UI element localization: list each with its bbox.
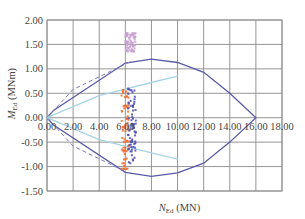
scatter-point [135,132,137,134]
scatter-point [134,47,136,49]
x-tick-label: 12.00 [192,121,216,132]
scatter-point [134,142,136,144]
x-tick-label: 4.00 [90,121,108,132]
scatter-point [123,138,125,140]
mn-interaction-chart: 2.001.501.000.500.00-0.50-1.00-1.500.002… [0,0,305,219]
plot-area [47,20,282,191]
scatter-point [122,92,124,94]
scatter-point [130,100,132,102]
scatter-point [126,140,128,142]
scatter-point [134,96,136,98]
scatter-point [131,49,133,51]
scatter-point [130,150,132,152]
scatter-point [125,34,127,36]
scatter-point [124,165,126,167]
scatter-point [133,90,135,92]
y-tick-label: 0.50 [25,88,43,99]
scatter-point [128,103,130,105]
scatter-point [131,116,133,118]
scatter-point [128,161,130,163]
scatter-point [130,146,132,148]
scatter-point [127,115,129,117]
scatter-point [127,93,129,95]
scatter-point [122,90,124,92]
scatter-point [132,158,134,160]
scatter-point [135,123,137,125]
scatter-point [134,32,136,34]
y-tick-label: 1.50 [25,39,43,50]
scatter-point [121,162,123,164]
scatter-point [124,147,126,149]
x-tick-label: 18.00 [270,121,294,132]
x-tick-label: 8.00 [142,121,160,132]
scatter-point [129,89,131,91]
y-tick-label: -1.00 [21,161,43,172]
chart-root: 2.001.501.000.500.00-0.50-1.00-1.500.002… [0,0,305,219]
scatter-point [128,148,130,150]
scatter-point [125,105,127,107]
scatter-point [127,51,129,53]
scatter-point [134,98,136,100]
scatter-point [123,141,125,143]
scatter-point [128,117,130,119]
x-tick-label: 10.00 [166,121,190,132]
y-axis-label: MEd (MNm) [6,67,19,120]
scatter-point [132,41,134,43]
scatter-point [134,38,136,40]
x-tick-label: 14.00 [218,121,242,132]
y-tick-label: -0.50 [21,137,43,148]
scatter-point [121,149,123,151]
scatter-point [134,150,136,152]
scatter-point [121,137,123,139]
scatter-point [123,146,125,148]
scatter-point [124,42,126,44]
x-tick-label: 0.00 [38,121,56,132]
scatter-point [134,134,136,136]
scatter-point [121,95,123,97]
scatter-point [134,157,136,159]
scatter-point [129,41,131,43]
scatter-point [126,44,128,46]
x-tick-label: 2.00 [64,121,82,132]
y-tick-label: 2.00 [25,15,43,26]
scatter-point [127,47,129,49]
x-tick-label: 16.00 [244,121,268,132]
scatter-point [124,96,126,98]
scatter-point [132,106,134,108]
scatter-point [130,144,132,146]
scatter-point [131,140,133,142]
scatter-point [129,137,131,139]
scatter-point [125,90,127,92]
scatter-point [127,88,129,90]
scatter-point [124,153,126,155]
x-tick-label: 6.00 [116,121,134,132]
scatter-point [127,97,129,99]
scatter-point [127,168,129,170]
scatter-point [123,168,125,170]
scatter-point [123,107,125,109]
scatter-point [123,158,125,160]
scatter-point [131,149,133,151]
scatter-point [135,109,137,111]
scatter-point [135,120,137,122]
scatter-point [134,41,136,43]
scatter-point [132,146,134,148]
scatter-point [131,154,133,156]
scatter-point [131,113,133,115]
scatter-point [127,107,129,109]
scatter-point [127,104,129,106]
scatter-point [127,134,129,136]
scatter-point [132,110,134,112]
scatter-point [131,91,133,93]
scatter-point [127,111,129,113]
scatter-point [130,105,132,107]
scatter-point [121,110,123,112]
scatter-point [132,45,134,47]
scatter-point [126,158,128,160]
y-tick-label: 1.00 [25,63,43,74]
scatter-point [134,36,136,38]
scatter-point [123,105,125,107]
scatter-point [133,101,135,103]
scatter-point [121,168,123,170]
scatter-point [124,149,126,151]
